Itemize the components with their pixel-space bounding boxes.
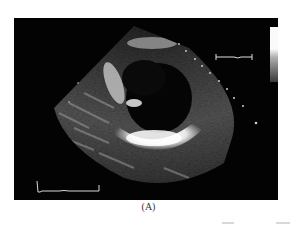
ultrasound-sector-image [14,18,278,200]
grayscale-bar [270,27,278,82]
figure-caption: (A) [0,201,297,212]
ecg-trace-icon [37,181,99,192]
scale-bracket-icon [216,54,252,60]
echo-fan [14,18,278,200]
scan-artifact [222,222,234,224]
scan-artifact [276,222,290,224]
ultrasound-panel [14,18,278,200]
